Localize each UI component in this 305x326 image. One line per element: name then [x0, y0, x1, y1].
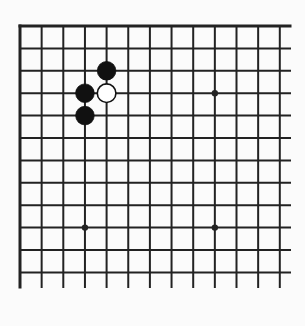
star-point-icon	[82, 224, 88, 230]
black-stone[interactable]	[76, 106, 95, 125]
black-stone[interactable]	[97, 62, 116, 81]
black-stone[interactable]	[76, 84, 95, 103]
star-point-icon	[212, 224, 218, 230]
white-stone[interactable]	[97, 84, 116, 103]
star-point-icon	[212, 90, 218, 96]
go-board[interactable]	[0, 0, 305, 326]
